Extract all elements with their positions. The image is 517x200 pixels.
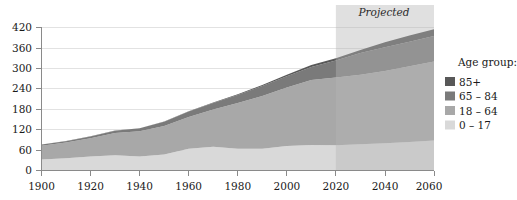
legend: Age group: 85+65 – 8418 – 640 – 17 <box>445 56 517 131</box>
x-label-1960: 1960 <box>175 180 202 192</box>
y-label-420: 420 <box>12 21 32 33</box>
legend-label-2: 18 – 64 <box>459 105 498 117</box>
x-label-1900: 1900 <box>28 180 55 192</box>
x-label-2020: 2020 <box>323 180 350 192</box>
legend-swatch-1[interactable] <box>445 92 455 101</box>
projected-label: Projected <box>358 6 410 18</box>
y-label-60: 60 <box>19 144 32 156</box>
y-tick-marks <box>36 28 41 171</box>
x-label-1940: 1940 <box>126 180 153 192</box>
legend-swatch-0[interactable] <box>445 77 455 86</box>
legend-items: 85+65 – 8418 – 640 – 17 <box>445 76 498 132</box>
x-label-1920: 1920 <box>77 180 104 192</box>
x-axis-labels: 1900 1920 1940 1960 1980 2000 2020 2040 … <box>28 180 442 192</box>
stacked-area-chart: Projected <box>0 0 517 200</box>
legend-title: Age group: <box>457 56 517 68</box>
y-axis-labels: 420 360 300 240 180 120 60 0 <box>12 21 32 176</box>
legend-swatch-3[interactable] <box>445 121 455 130</box>
y-label-360: 360 <box>12 42 32 54</box>
legend-label-3: 0 – 17 <box>459 119 491 131</box>
x-tick-marks <box>42 171 435 177</box>
x-label-2000: 2000 <box>274 180 301 192</box>
legend-swatch-2[interactable] <box>445 106 455 115</box>
x-label-2040: 2040 <box>372 180 399 192</box>
x-label-2060: 2060 <box>416 180 443 192</box>
chart-canvas: Projected <box>0 0 517 200</box>
y-label-240: 240 <box>12 82 32 94</box>
y-label-300: 300 <box>12 62 32 74</box>
projected-region-shade <box>336 5 434 171</box>
legend-label-1: 65 – 84 <box>459 90 498 102</box>
legend-label-0: 85+ <box>459 76 481 88</box>
y-label-120: 120 <box>12 123 32 135</box>
y-label-180: 180 <box>12 103 32 115</box>
x-label-1980: 1980 <box>224 180 251 192</box>
y-label-0: 0 <box>25 164 32 176</box>
